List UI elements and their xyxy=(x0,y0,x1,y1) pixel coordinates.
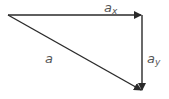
label-ax-sub: x xyxy=(112,6,117,16)
label-a-base: a xyxy=(45,51,53,66)
label-ay-base: a xyxy=(147,51,155,66)
label-ax-base: a xyxy=(104,0,112,15)
vector-diagram xyxy=(0,0,169,99)
label-ay-sub: y xyxy=(155,57,160,67)
label-a: a xyxy=(45,52,53,65)
label-ax: ax xyxy=(104,1,117,16)
label-ay: ay xyxy=(147,52,160,67)
vector-a-arrow xyxy=(8,15,141,90)
